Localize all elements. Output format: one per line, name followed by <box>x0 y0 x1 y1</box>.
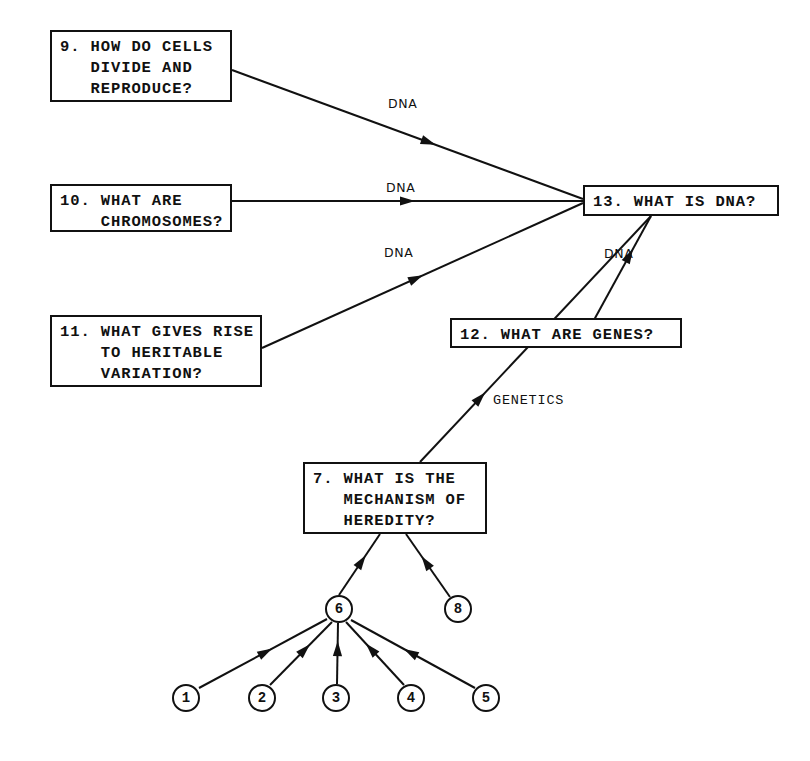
node-circle-3[interactable]: 3 <box>322 684 350 712</box>
question-box-q10[interactable]: 10. WHAT ARE CHROMOSOMES? <box>50 184 232 232</box>
edge-label-lbl-genetics: GENETICS <box>493 393 564 408</box>
node-circle-6[interactable]: 6 <box>325 595 353 623</box>
diagram-canvas: 9. HOW DO CELLS DIVIDE AND REPRODUCE?10.… <box>0 0 810 761</box>
edge-label-lbl-dna-1: DNA <box>388 96 417 111</box>
edge-label-lbl-dna-2: DNA <box>386 180 415 195</box>
arrowhead-icon <box>400 196 415 205</box>
edge-e6-7 <box>339 534 380 595</box>
question-box-q7[interactable]: 7. WHAT IS THE MECHANISM OF HEREDITY? <box>303 462 487 534</box>
edge-e10-13 <box>232 196 583 205</box>
node-circle-1[interactable]: 1 <box>172 684 200 712</box>
arrowhead-icon <box>354 555 366 570</box>
node-circle-2[interactable]: 2 <box>248 684 276 712</box>
edge-e3-6 <box>333 623 342 684</box>
arrowhead-icon <box>333 641 342 656</box>
arrowhead-icon <box>420 135 436 144</box>
question-box-q11[interactable]: 11. WHAT GIVES RISE TO HERITABLE VARIATI… <box>50 315 262 387</box>
edge-e2-6 <box>270 622 332 685</box>
arrowhead-icon <box>404 649 419 660</box>
edge-e1-6 <box>199 619 327 688</box>
edge-label-lbl-dna-4: DNA <box>604 246 633 261</box>
edge-label-lbl-dna-3: DNA <box>384 245 413 260</box>
node-circle-8[interactable]: 8 <box>444 595 472 623</box>
edge-e4-6 <box>346 622 404 685</box>
question-box-q13[interactable]: 13. WHAT IS DNA? <box>583 185 779 216</box>
question-box-q9[interactable]: 9. HOW DO CELLS DIVIDE AND REPRODUCE? <box>50 30 232 102</box>
arrowhead-icon <box>422 556 434 571</box>
node-circle-5[interactable]: 5 <box>472 684 500 712</box>
edge-e8-7 <box>406 534 450 597</box>
question-box-q12[interactable]: 12. WHAT ARE GENES? <box>450 318 682 348</box>
arrowhead-icon <box>257 649 272 660</box>
edge-e5-6 <box>351 620 475 688</box>
arrowhead-icon <box>407 275 423 285</box>
node-circle-4[interactable]: 4 <box>397 684 425 712</box>
